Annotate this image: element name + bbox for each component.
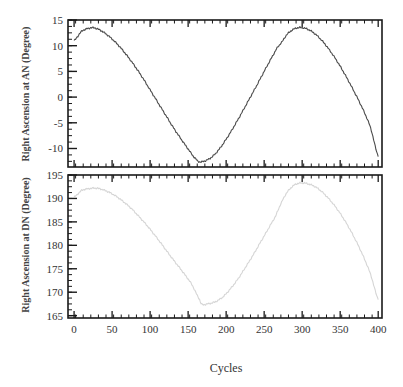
y-tick-label: -5: [54, 117, 64, 129]
y-tick-label: 10: [52, 40, 64, 52]
x-tick-label: 50: [107, 323, 119, 335]
y-tick-label: 0: [58, 91, 64, 103]
y-tick-label: 15: [52, 14, 64, 26]
bottom-y-axis-title: Right Ascension at DN (Degree): [20, 177, 32, 312]
x-tick-label: 150: [180, 323, 197, 335]
x-axis-title: Cycles: [210, 361, 243, 375]
x-tick-label: 0: [71, 323, 77, 335]
figure-container: -10-5051015 0501001502002503003504001651…: [0, 0, 403, 387]
y-tick-label: 5: [58, 65, 64, 77]
y-tick-label: 190: [47, 192, 64, 204]
y-tick-label: 185: [47, 216, 64, 228]
y-tick-label: 175: [47, 263, 64, 275]
x-tick-label: 300: [294, 323, 311, 335]
y-tick-label: -10: [48, 142, 63, 154]
x-tick-label: 350: [332, 323, 349, 335]
y-tick-label: 195: [47, 169, 64, 181]
x-tick-label: 400: [370, 323, 387, 335]
top-y-axis-title: Right Ascension at AN (Degree): [20, 27, 32, 162]
y-tick-label: 170: [47, 286, 64, 298]
x-tick-label: 200: [218, 323, 235, 335]
y-tick-label: 165: [47, 310, 64, 322]
x-tick-label: 250: [256, 323, 273, 335]
y-tick-label: 180: [47, 239, 64, 251]
x-tick-label: 100: [142, 323, 159, 335]
dual-panel-line-chart: -10-5051015 0501001502002503003504001651…: [0, 0, 403, 387]
